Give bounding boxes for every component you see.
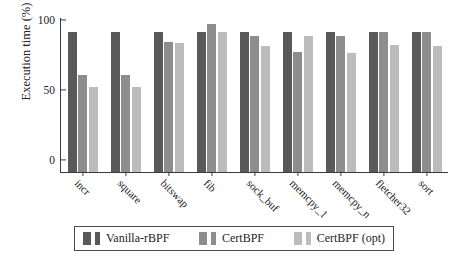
x-axis-tick-label: square	[115, 177, 144, 206]
bar	[175, 43, 184, 172]
legend-swatch-secondary	[306, 232, 311, 245]
x-axis-tick-mark	[254, 172, 255, 176]
bar	[347, 53, 356, 172]
bar-group: bitswap	[154, 18, 184, 172]
bar-group: sort	[412, 18, 442, 172]
bar-chart-figure: Execution time (%) 050100 incrsquarebits…	[0, 0, 464, 261]
bar-group: memcpy_n	[326, 18, 356, 172]
x-axis-tick-label: sort	[416, 177, 436, 197]
bar-groups: incrsquarebitswapfibsock_bufmemcpy_1memc…	[61, 18, 448, 172]
bar	[121, 75, 130, 172]
bar	[68, 32, 77, 172]
bar	[304, 36, 313, 172]
x-axis-tick-mark	[426, 172, 427, 176]
legend-swatch	[83, 232, 91, 245]
bar	[422, 32, 431, 172]
x-axis-tick-label: sock_buf	[244, 177, 281, 214]
y-axis-tick-label: 50	[44, 84, 62, 96]
bar	[218, 32, 227, 172]
plot-area: 050100 incrsquarebitswapfibsock_bufmemcp…	[60, 18, 448, 173]
y-axis-tick-label: 100	[38, 14, 61, 26]
legend-item: Vanilla-rBPF	[83, 231, 169, 246]
y-axis-title: Execution time (%)	[19, 0, 34, 132]
x-axis-tick-label: memcpy_1	[287, 177, 330, 220]
x-axis-tick-mark	[383, 172, 384, 176]
x-axis-tick-mark	[211, 172, 212, 176]
bar	[164, 42, 173, 172]
bar	[250, 36, 259, 172]
legend-label: CertBPF (opt)	[317, 231, 385, 246]
bar	[240, 32, 249, 172]
bar	[261, 46, 270, 172]
bar	[207, 24, 216, 172]
legend-label: Vanilla-rBPF	[106, 231, 169, 246]
bar	[154, 32, 163, 172]
bar	[132, 87, 141, 172]
bar-group: fletcher32	[369, 18, 399, 172]
x-axis-tick-label: memcpy_n	[330, 177, 373, 220]
x-axis-tick-label: bitswap	[158, 177, 191, 210]
legend-item: CertBPF	[199, 231, 264, 246]
bar	[197, 32, 206, 172]
x-axis-tick-label: fib	[201, 177, 218, 194]
legend-swatch-secondary	[211, 232, 216, 245]
bar	[412, 32, 421, 172]
x-axis-tick-label: incr	[72, 177, 93, 198]
bar-group: sock_buf	[240, 18, 270, 172]
x-axis-tick-label: fletcher32	[373, 177, 413, 217]
bar-group: fib	[197, 18, 227, 172]
legend-item: CertBPF (opt)	[294, 231, 385, 246]
x-axis-tick-mark	[82, 172, 83, 176]
bar	[293, 52, 302, 172]
bar	[111, 32, 120, 172]
bar	[78, 75, 87, 172]
bar	[379, 32, 388, 172]
bar	[326, 32, 335, 172]
bar	[369, 32, 378, 172]
legend-label: CertBPF	[222, 231, 264, 246]
legend-swatch-secondary	[95, 232, 100, 245]
bar-group: square	[111, 18, 141, 172]
x-axis-tick-mark	[297, 172, 298, 176]
x-axis-tick-mark	[168, 172, 169, 176]
bar-group: memcpy_1	[283, 18, 313, 172]
bar	[283, 32, 292, 172]
bar	[336, 36, 345, 172]
y-axis-tick-label: 0	[49, 154, 61, 166]
bar-group: incr	[68, 18, 98, 172]
x-axis-tick-mark	[340, 172, 341, 176]
bar	[433, 46, 442, 172]
legend-swatch	[199, 232, 207, 245]
legend-swatch	[294, 232, 302, 245]
x-axis-tick-mark	[125, 172, 126, 176]
bar	[390, 45, 399, 172]
chart-legend: Vanilla-rBPFCertBPFCertBPF (opt)	[74, 226, 394, 251]
bar	[89, 87, 98, 172]
